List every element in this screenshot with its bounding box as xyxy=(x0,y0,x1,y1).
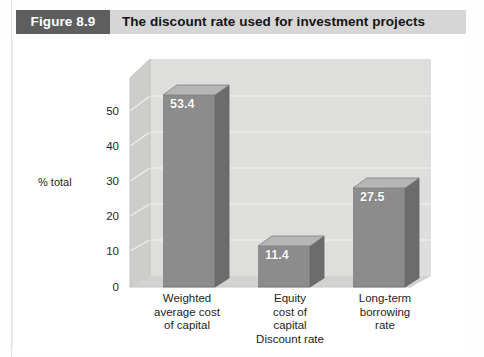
x-category-label-1-line-1: Weighted xyxy=(135,292,239,306)
bar-weighted-average-cost-of-capital xyxy=(163,85,229,287)
y-tick-label-10: 10 xyxy=(93,245,119,257)
x-category-label-2-line-3: capital xyxy=(238,319,342,333)
y-tick-label-20: 20 xyxy=(93,210,119,222)
x-axis-label: Discount rate xyxy=(238,333,342,345)
x-category-label-3-line-3: rate xyxy=(333,319,437,333)
y-axis-label: % total xyxy=(38,176,72,188)
figure-number-tag: Figure 8.9 xyxy=(16,10,110,34)
x-category-label-1: Weighted average cost of capital xyxy=(135,292,239,333)
bar-value-label-1: 53.4 xyxy=(170,97,194,111)
x-category-label-2-line-2: cost of xyxy=(238,306,342,320)
bar-value-label-3: 27.5 xyxy=(360,190,384,204)
y-tick-label-30: 30 xyxy=(93,175,119,187)
y-tick-label-50: 50 xyxy=(93,105,119,117)
figure-title: The discount rate used for investment pr… xyxy=(122,10,425,34)
x-category-label-2: Equity cost of capital xyxy=(238,292,342,333)
left-side-wall xyxy=(130,59,150,287)
bar-value-label-2: 11.4 xyxy=(265,248,289,262)
x-category-label-2-line-1: Equity xyxy=(238,292,342,306)
y-tick-label-40: 40 xyxy=(93,140,119,152)
x-category-label-1-line-2: average cost xyxy=(135,306,239,320)
chart-frame: 50 40 30 20 10 0 % total 53.4 11.4 27.5 … xyxy=(12,38,467,350)
y-tick-label-0: 0 xyxy=(93,281,119,293)
figure-container: Figure 8.9 The discount rate used for in… xyxy=(0,0,484,357)
x-category-label-3: Long-term borrowing rate xyxy=(333,292,437,333)
x-category-label-3-line-1: Long-term xyxy=(333,292,437,306)
x-category-label-1-line-3: of capital xyxy=(135,319,239,333)
x-category-label-3-line-2: borrowing xyxy=(333,306,437,320)
